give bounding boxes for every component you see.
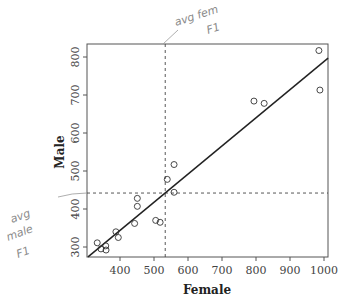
x-tick-label: 1000	[310, 264, 338, 277]
data-point	[164, 176, 170, 182]
y-axis-title: Male	[53, 135, 67, 169]
annotation-pointer	[163, 30, 178, 44]
data-point	[132, 220, 138, 226]
annotation-text: male	[5, 222, 35, 244]
x-tick-label: 500	[144, 264, 165, 277]
data-point	[134, 195, 140, 201]
scatter-chart: 4005006007008009001000 30040050060070080…	[0, 0, 342, 301]
y-tick-label: 800	[69, 47, 82, 68]
data-point	[171, 189, 177, 195]
x-axis-ticks: 4005006007008009001000	[110, 257, 339, 277]
annotation-text: F1	[15, 244, 32, 261]
y-tick-label: 600	[69, 123, 82, 144]
fit-line	[88, 58, 328, 257]
x-tick-label: 600	[178, 264, 199, 277]
plot-frame	[87, 44, 328, 257]
y-axis-ticks: 300400500600700800	[69, 47, 87, 258]
data-point	[134, 203, 140, 209]
x-tick-label: 400	[110, 264, 131, 277]
y-tick-label: 400	[69, 199, 82, 220]
y-tick-label: 300	[69, 237, 82, 258]
annotation-text: F1	[205, 20, 222, 36]
data-points	[94, 48, 323, 254]
data-point	[316, 48, 322, 54]
regression-line	[88, 58, 328, 257]
data-point	[171, 162, 177, 168]
y-tick-label: 700	[69, 85, 82, 106]
x-axis-title: Female	[183, 283, 232, 297]
data-point	[261, 100, 267, 106]
data-point	[94, 240, 100, 246]
annotation-pointer	[58, 193, 87, 197]
reference-lines	[87, 44, 328, 257]
x-tick-label: 700	[212, 264, 233, 277]
x-tick-label: 800	[246, 264, 267, 277]
data-point	[115, 235, 121, 241]
y-tick-label: 500	[69, 161, 82, 182]
x-tick-label: 900	[280, 264, 301, 277]
data-point	[251, 98, 257, 104]
annotation-avg-fem: avg fem F1	[163, 3, 222, 44]
data-point	[317, 87, 323, 93]
